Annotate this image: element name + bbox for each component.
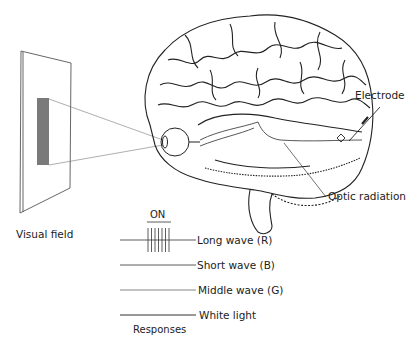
spike-train	[148, 228, 169, 252]
optic-radiation-label: Optic radiation	[328, 191, 406, 202]
trace-label-white-light: White light	[199, 310, 256, 321]
on-label: ON	[150, 210, 165, 220]
stimulus-bar	[37, 98, 49, 165]
response-traces	[120, 228, 196, 315]
trace-label-middle-wave: Middle wave (G)	[198, 285, 283, 296]
trace-label-short-wave: Short wave (B)	[197, 260, 275, 271]
trace-label-long-wave: Long wave (R)	[197, 235, 272, 246]
electrode-icon	[337, 107, 380, 142]
optic-radiation-leader	[284, 143, 326, 197]
responses-label: Responses	[133, 325, 186, 335]
eye-drawing	[161, 128, 200, 156]
electrode-label: Electrode	[355, 90, 405, 101]
visual-field-label: Visual field	[16, 229, 73, 240]
